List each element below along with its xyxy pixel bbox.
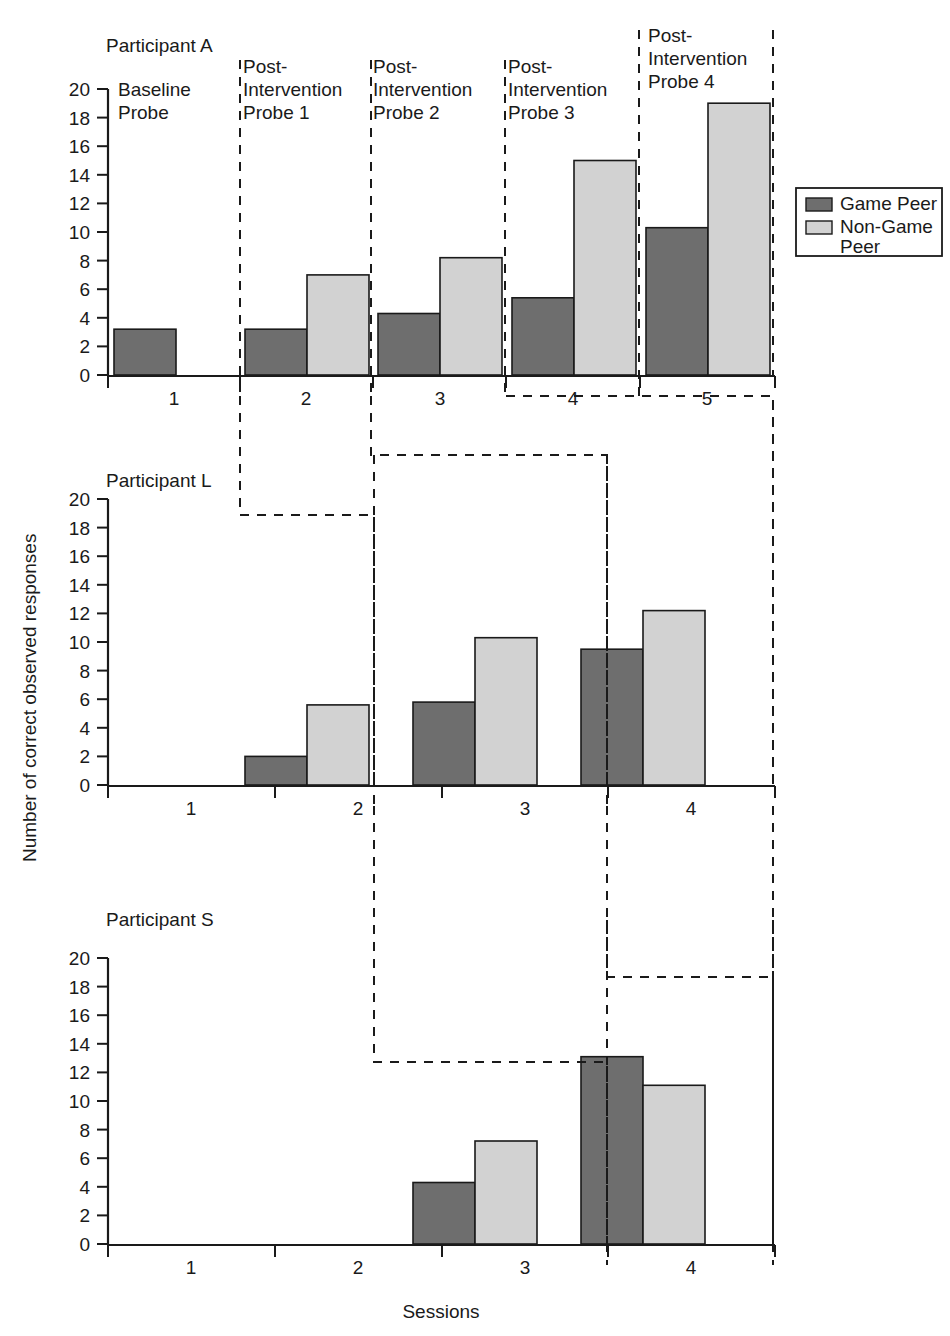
y-tick-label: 16 (69, 1005, 90, 1026)
panel-a-title: Participant A (106, 35, 213, 56)
y-tick-label: 6 (79, 689, 90, 710)
phase-label-post-probe-3: Post- (508, 56, 552, 77)
phase-label-post-probe-3: Probe 3 (508, 102, 575, 123)
y-tick-label: 4 (79, 1177, 90, 1198)
x-tick-label: 2 (353, 1257, 364, 1278)
bar-non-game-peer (708, 103, 770, 375)
panel-s-y-tick-labels: 20 18 16 14 12 10 8 6 4 2 0 (69, 948, 91, 1255)
y-tick-label: 20 (69, 948, 90, 969)
bar-non-game-peer (643, 1085, 705, 1244)
y-tick-label: 16 (69, 546, 90, 567)
x-axis-title: Sessions (402, 1301, 479, 1322)
phase-label-post-probe-4: Intervention (648, 48, 747, 69)
y-tick-label: 12 (69, 603, 90, 624)
y-tick-label: 8 (79, 661, 90, 682)
y-tick-label: 2 (79, 746, 90, 767)
x-tick-label: 2 (353, 798, 364, 819)
y-tick-label: 6 (79, 279, 90, 300)
y-axis-title-group: Number of correct observed responses (19, 534, 40, 862)
bar-game-peer (245, 329, 307, 375)
y-tick-label: 14 (69, 1034, 91, 1055)
panel-s-bars (413, 1057, 705, 1244)
y-tick-label: 20 (69, 79, 90, 100)
y-tick-label: 14 (69, 575, 91, 596)
y-tick-label: 2 (79, 336, 90, 357)
panel-s-title: Participant S (106, 909, 214, 930)
x-tick-label: 2 (301, 388, 312, 409)
legend-label-game-peer: Game Peer (840, 193, 938, 214)
x-tick-label: 3 (520, 798, 531, 819)
panel-l-title: Participant L (106, 470, 212, 491)
y-tick-label: 4 (79, 718, 90, 739)
y-tick-label: 10 (69, 1091, 90, 1112)
y-tick-label: 12 (69, 193, 90, 214)
panel-a-y-axis: 20 18 16 14 12 10 8 6 4 2 0 (69, 79, 108, 386)
x-tick-label: 4 (686, 1257, 697, 1278)
y-tick-label: 16 (69, 136, 90, 157)
bar-non-game-peer (574, 161, 636, 376)
phase-label-post-probe-1: Probe 1 (243, 102, 310, 123)
y-tick-label: 4 (79, 308, 90, 329)
phase-label-post-probe-4: Post- (648, 25, 692, 46)
panel-l-y-tick-labels: 20 18 16 14 12 10 8 6 4 2 0 (69, 489, 91, 796)
bar-game-peer (114, 329, 176, 375)
legend-label-non-game-peer-line2: Peer (840, 236, 881, 257)
panel-l-x-axis: 1 2 3 4 (108, 786, 775, 819)
panel-participant-a: Participant A 20 (69, 25, 775, 409)
x-tick-label: 1 (169, 388, 180, 409)
phase-label-post-probe-1: Intervention (243, 79, 342, 100)
bar-game-peer (646, 228, 708, 375)
phase-label-post-probe-2: Probe 2 (373, 102, 440, 123)
bar-game-peer (378, 314, 440, 376)
x-tick-label: 5 (702, 388, 713, 409)
panel-participant-l: Participant L 20 (69, 400, 775, 819)
x-tick-label: 4 (568, 388, 579, 409)
panel-a-y-ticks (97, 89, 108, 375)
y-tick-label: 10 (69, 222, 90, 243)
y-tick-label: 0 (79, 365, 90, 386)
y-tick-label: 18 (69, 518, 90, 539)
panel-l-bars (245, 611, 705, 785)
bar-game-peer (581, 649, 643, 785)
y-tick-label: 2 (79, 1205, 90, 1226)
figure-canvas: Number of correct observed responses Par… (0, 0, 950, 1336)
phase-label-post-probe-3: Intervention (508, 79, 607, 100)
panel-a-y-tick-labels: 20 18 16 14 12 10 8 6 4 2 0 (69, 79, 91, 386)
bar-non-game-peer (307, 705, 369, 785)
y-axis-title: Number of correct observed responses (19, 534, 40, 862)
y-tick-label: 14 (69, 165, 91, 186)
bar-non-game-peer (643, 611, 705, 785)
bar-non-game-peer (475, 1141, 537, 1244)
phase-label-post-probe-4: Probe 4 (648, 71, 715, 92)
bar-game-peer (413, 702, 475, 785)
y-tick-label: 18 (69, 108, 90, 129)
bar-game-peer (581, 1057, 643, 1244)
y-tick-label: 10 (69, 632, 90, 653)
panel-l-y-axis: 20 18 16 14 12 10 8 6 4 2 0 (69, 489, 108, 796)
y-tick-label: 20 (69, 489, 90, 510)
phase-label-post-probe-2: Intervention (373, 79, 472, 100)
bar-game-peer (245, 756, 307, 785)
panel-participant-s: Participant S 20 (69, 909, 775, 1322)
phase-label-baseline-probe: Probe (118, 102, 169, 123)
y-tick-label: 0 (79, 1234, 90, 1255)
y-tick-label: 8 (79, 251, 90, 272)
panel-s-x-axis: 1 2 3 4 (108, 1245, 775, 1278)
bar-non-game-peer (440, 258, 502, 375)
y-tick-label: 6 (79, 1148, 90, 1169)
phase-label-baseline-probe: Baseline (118, 79, 191, 100)
x-tick-label: 3 (520, 1257, 531, 1278)
legend-swatch-non-game-peer (806, 221, 832, 234)
phase-label-post-probe-1: Post- (243, 56, 287, 77)
x-tick-label: 1 (186, 1257, 197, 1278)
x-tick-label: 3 (435, 388, 446, 409)
legend-label-non-game-peer: Non-Game (840, 216, 933, 237)
y-tick-label: 0 (79, 775, 90, 796)
panel-a-bars (114, 103, 770, 375)
legend: Game Peer Non-Game Peer (796, 188, 942, 257)
bar-game-peer (512, 298, 574, 375)
panel-a-x-axis: 1 2 3 4 5 (108, 376, 775, 409)
bar-non-game-peer (307, 275, 369, 375)
y-tick-label: 12 (69, 1062, 90, 1083)
x-tick-label: 4 (686, 798, 697, 819)
